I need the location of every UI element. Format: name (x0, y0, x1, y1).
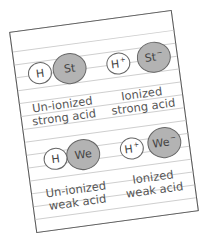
hydrogen-symbol: H (124, 143, 134, 155)
hydrogen-symbol: H (35, 67, 45, 79)
weak-acid-anion-circle: We (64, 137, 102, 172)
anion-symbol: We (152, 136, 170, 149)
panel-ionized-strong-acid: H+ St− Ionized strong acid (10, 11, 171, 33)
lined-paper-note: St H Un-ionized strong acid H+ St− Ioniz… (9, 10, 199, 233)
hydrogen-ion-circle: H+ (105, 51, 132, 76)
negative-charge: − (156, 50, 163, 58)
positive-charge: + (133, 141, 140, 149)
panel-label: Ionized strong acid (101, 82, 184, 118)
panel-unionized-strong-acid: St H Un-ionized strong acid (10, 11, 171, 33)
hydrogen-symbol: H (51, 153, 61, 165)
weak-acid-anion-ion-circle: We− (145, 125, 183, 160)
negative-charge: − (170, 135, 177, 143)
anion-symbol: St (144, 51, 157, 63)
panel-label: Un-ionized strong acid (22, 93, 105, 129)
hydrogen-symbol: H (110, 58, 120, 70)
panel-unionized-weak-acid: We H Un-ionized weak acid (10, 11, 171, 33)
anion-symbol: We (74, 148, 92, 161)
positive-charge: + (119, 56, 126, 64)
panel-label: Ionized weak acid (112, 166, 195, 202)
anion-symbol: St (63, 62, 76, 74)
hydrogen-circle: H (27, 61, 54, 86)
panel-ionized-weak-acid: H+ We− Ionized weak acid (10, 11, 171, 33)
